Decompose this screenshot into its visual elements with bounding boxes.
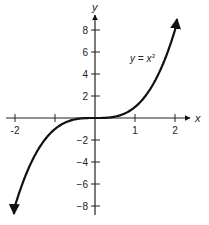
y-tick-label: 4 — [82, 69, 88, 80]
x-tick-label: 2 — [172, 125, 178, 136]
cubic-function-graph: -212 −8−6−4−22468 x y y = x3 — [0, 0, 209, 225]
y-axis-label: y — [91, 1, 99, 13]
x-axis-label: x — [194, 112, 201, 124]
curve-equation-label: y = x3 — [129, 53, 155, 64]
y-tick-label: 8 — [82, 25, 88, 36]
x-tick-label: 1 — [132, 125, 138, 136]
y-tick-label: −4 — [77, 157, 89, 168]
x-tick-label: -2 — [11, 125, 20, 136]
y-tick-label: −6 — [77, 179, 89, 190]
y-tick-label: 2 — [82, 91, 88, 102]
y-tick-label: −2 — [77, 135, 89, 146]
y-tick-label: 6 — [82, 47, 88, 58]
y-tick-label: −8 — [77, 201, 89, 212]
